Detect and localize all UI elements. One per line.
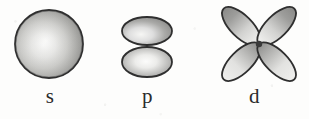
s-orbital-sphere-icon: [0, 4, 100, 88]
orbital-label-p: p: [100, 84, 195, 108]
orbital-group-p: p: [100, 0, 195, 119]
orbital-group-d: d: [200, 0, 309, 119]
orbital-group-s: s: [0, 0, 100, 119]
orbital-label-s: s: [0, 84, 100, 108]
d-orbital-cloverleaf-icon: [200, 4, 309, 88]
orbital-shapes-figure: s: [0, 0, 309, 119]
orbital-label-d: d: [200, 84, 309, 108]
p-orbital-dumbbell-icon: [100, 4, 195, 88]
